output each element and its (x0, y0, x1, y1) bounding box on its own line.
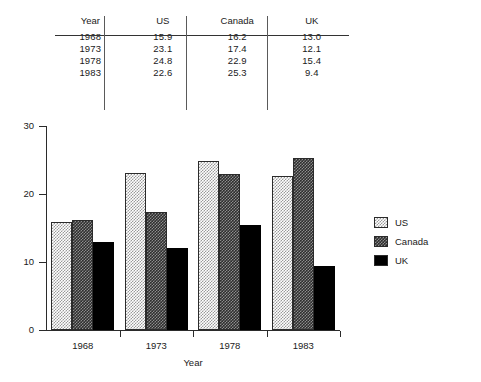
bar-us-1978 (198, 161, 219, 330)
y-tick-label: 20 (0, 189, 34, 199)
bar-us-1968 (51, 222, 72, 330)
y-tick-label: 10 (0, 257, 34, 267)
bar-canada-1983 (293, 158, 314, 330)
legend-item-us: US (374, 214, 469, 231)
legend-swatch-uk-icon (374, 255, 388, 266)
x-tick-label: 1983 (273, 340, 333, 351)
x-tick-mark (267, 331, 268, 337)
legend-label-canada: Canada (395, 236, 428, 247)
bar-uk-1973 (167, 248, 188, 330)
x-axis-title: Year (46, 357, 340, 368)
legend-item-uk: UK (374, 252, 469, 269)
x-tick-mark (193, 331, 194, 337)
bar-canada-1968 (72, 220, 93, 330)
x-tick-label: 1978 (200, 340, 260, 351)
legend-label-us: US (395, 217, 408, 228)
bar-uk-1978 (240, 225, 261, 330)
y-tick-mark (39, 330, 47, 331)
legend-swatch-us-icon (374, 217, 388, 228)
legend-swatch-canada-icon (374, 236, 388, 247)
chart-legend: US Canada UK (374, 214, 469, 271)
x-tick-mark (120, 331, 121, 337)
bar-us-1983 (272, 176, 293, 330)
x-tick-mark (340, 331, 341, 337)
x-tick-label: 1973 (126, 340, 186, 351)
y-tick-label: 30 (0, 121, 34, 131)
y-tick-label: 0 (0, 325, 34, 335)
legend-label-uk: UK (395, 255, 408, 266)
plot-area (46, 126, 340, 330)
legend-item-canada: Canada (374, 233, 469, 250)
bar-us-1973 (125, 173, 146, 330)
bar-canada-1978 (219, 174, 240, 330)
bar-uk-1968 (93, 242, 114, 330)
x-tick-label: 1968 (53, 340, 113, 351)
bar-uk-1983 (314, 266, 335, 330)
bar-chart: 0102030 1968197319781983 Year US Canada … (0, 0, 481, 382)
bar-canada-1973 (146, 212, 167, 330)
